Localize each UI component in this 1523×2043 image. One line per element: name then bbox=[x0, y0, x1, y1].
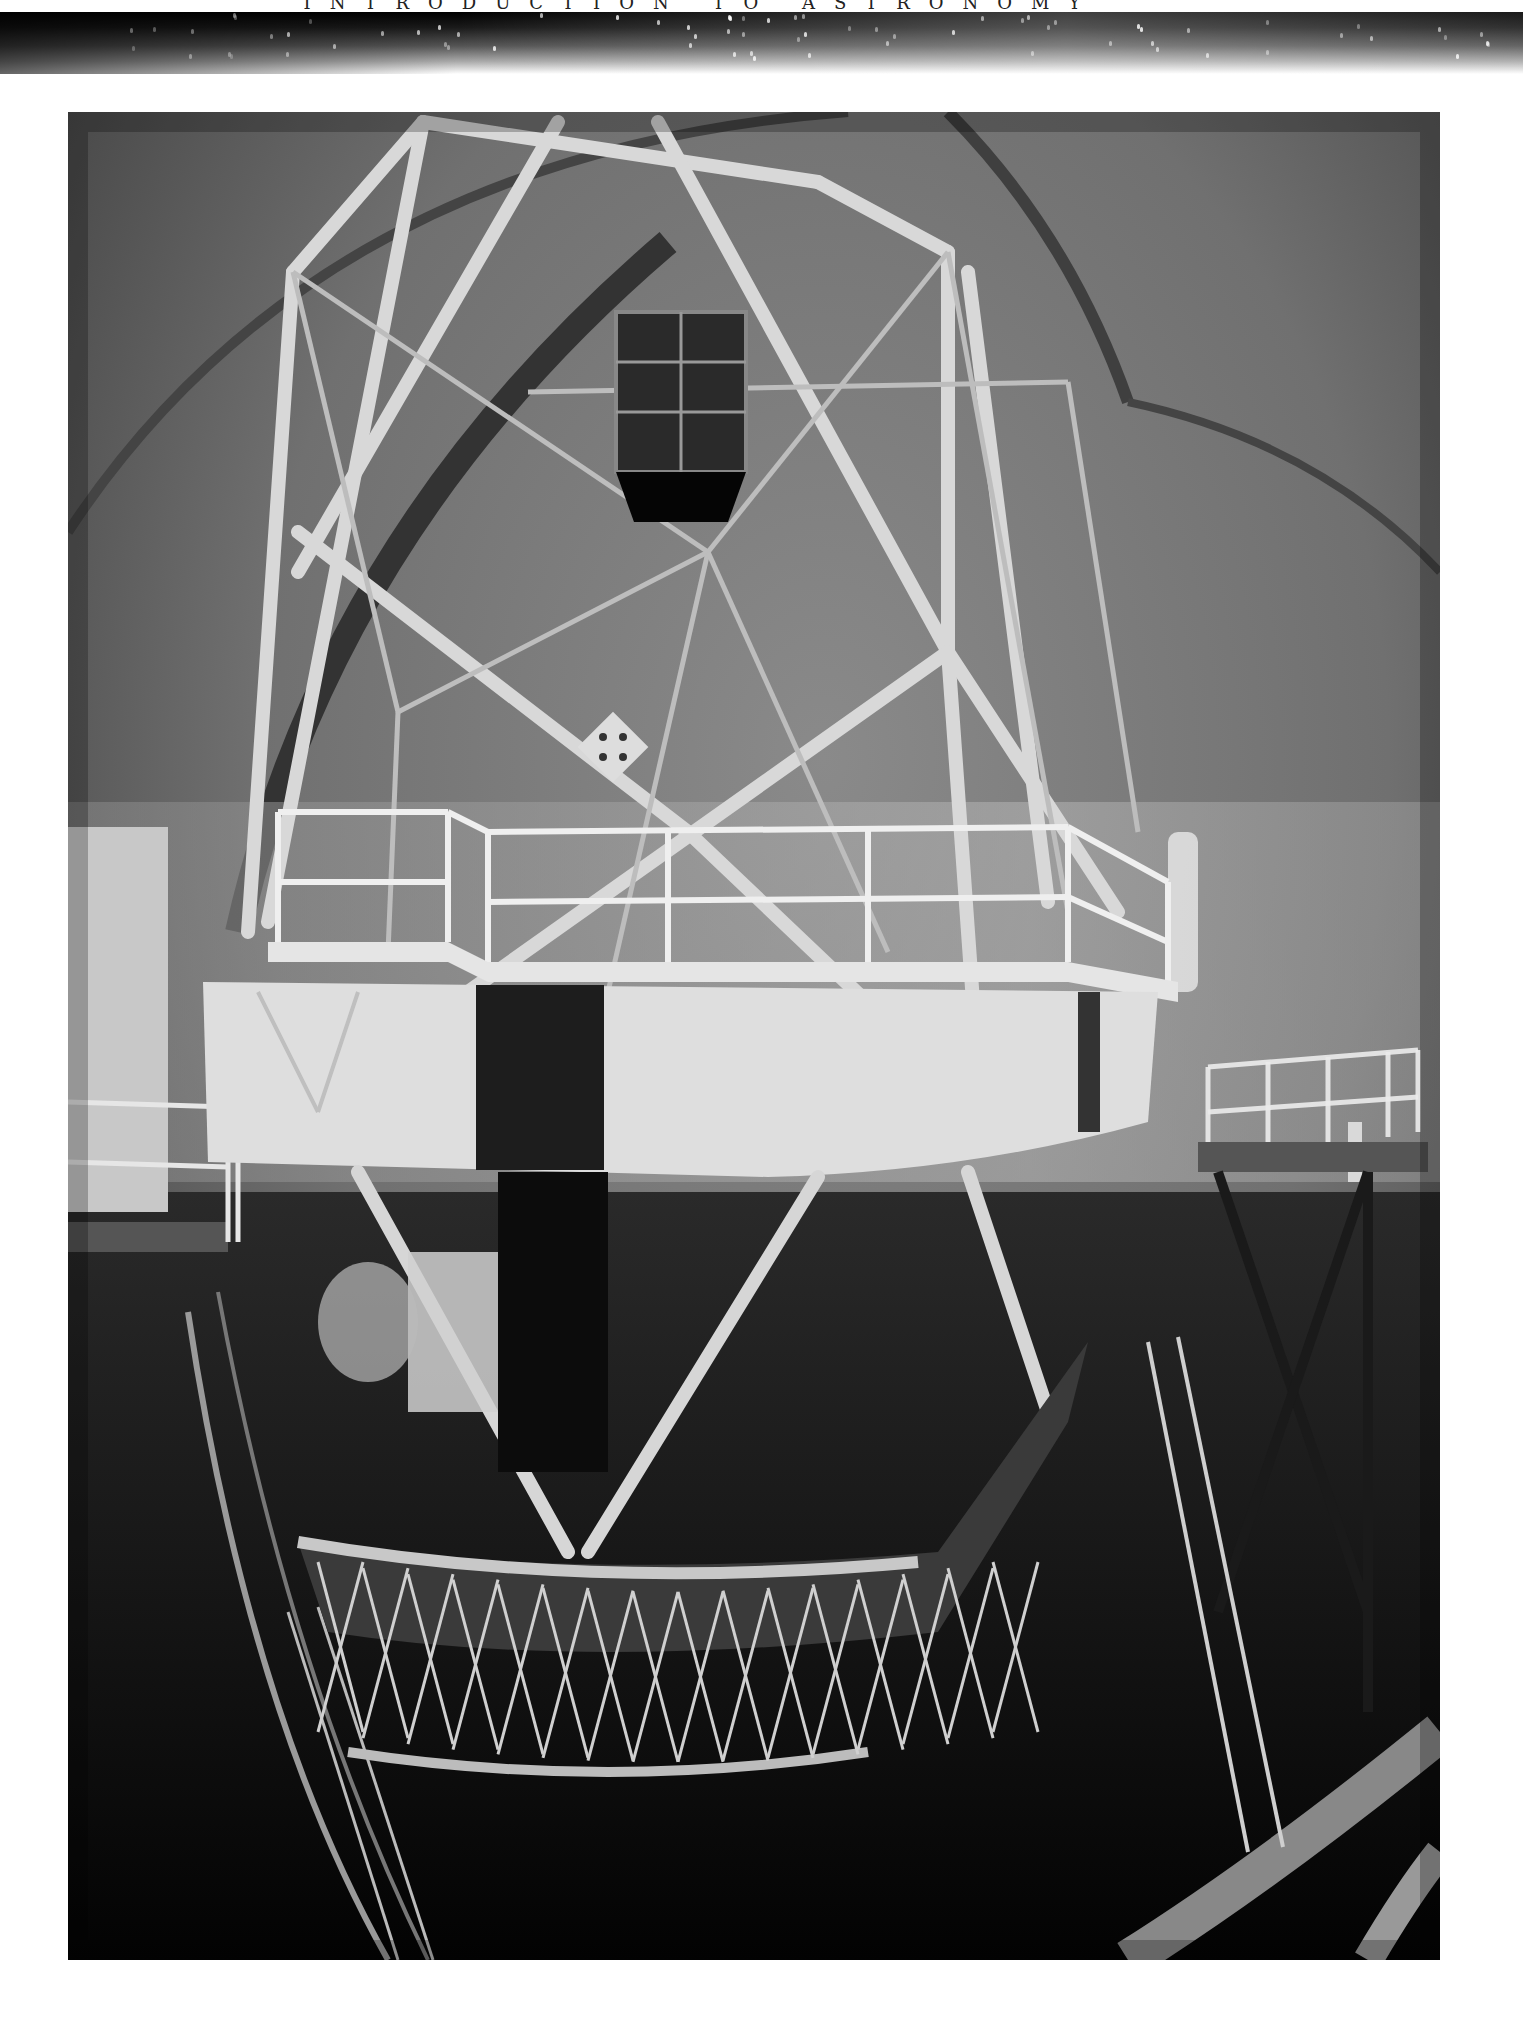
star-speck bbox=[952, 30, 955, 35]
star-speck bbox=[457, 32, 460, 37]
star-speck bbox=[1340, 33, 1343, 38]
center-section-panel bbox=[476, 985, 604, 1170]
star-speck bbox=[1109, 41, 1112, 46]
star-speck bbox=[728, 15, 731, 20]
star-speck bbox=[1370, 36, 1373, 41]
star-speck bbox=[733, 52, 736, 57]
telescope-center-section bbox=[203, 982, 1158, 1177]
star-speck bbox=[493, 46, 496, 51]
center-section-panel bbox=[1078, 992, 1100, 1132]
star-speck bbox=[687, 25, 690, 30]
star-speck bbox=[1054, 20, 1057, 25]
star-speck bbox=[189, 54, 192, 59]
star-speck bbox=[230, 54, 233, 59]
star-speck bbox=[540, 13, 543, 18]
star-speck bbox=[1438, 27, 1441, 32]
star-speck bbox=[742, 32, 745, 37]
star-speck bbox=[729, 16, 732, 21]
star-speck bbox=[1456, 54, 1459, 59]
star-speck bbox=[1031, 51, 1034, 56]
mirror-cell-equipment bbox=[318, 1262, 418, 1382]
star-speck bbox=[802, 14, 805, 19]
star-speck bbox=[753, 56, 756, 61]
star-speck bbox=[1487, 42, 1490, 47]
star-speck bbox=[893, 34, 896, 39]
star-speck bbox=[1140, 27, 1143, 32]
star-speck bbox=[1480, 32, 1483, 37]
star-speck bbox=[657, 20, 660, 25]
left-platform bbox=[68, 1222, 228, 1252]
telescope-photograph bbox=[68, 112, 1440, 1960]
star-speck bbox=[417, 30, 420, 35]
star-speck bbox=[270, 34, 273, 39]
star-speck bbox=[286, 52, 289, 57]
star-speck bbox=[797, 37, 800, 42]
right-platform bbox=[1198, 1142, 1428, 1172]
star-speck bbox=[132, 46, 135, 51]
star-speck bbox=[1137, 24, 1140, 29]
star-speck bbox=[233, 13, 236, 18]
star-speck bbox=[848, 26, 851, 31]
star-speck bbox=[1266, 50, 1269, 55]
prime-focus-cage bbox=[616, 312, 746, 522]
wall-light bbox=[1168, 832, 1198, 992]
star-speck bbox=[438, 25, 441, 30]
running-head-text: INTRODUCTION TO ASTRONOMY bbox=[304, 0, 1100, 12]
star-speck bbox=[886, 41, 889, 46]
star-speck bbox=[1444, 35, 1447, 40]
star-speck bbox=[742, 16, 745, 21]
star-speck bbox=[794, 15, 797, 20]
star-speck bbox=[444, 42, 447, 47]
star-speck bbox=[694, 34, 697, 39]
mirror-cell-column bbox=[498, 1172, 608, 1472]
star-speck bbox=[750, 51, 753, 56]
star-speck bbox=[1021, 18, 1024, 23]
star-speck bbox=[616, 15, 619, 20]
star-speck bbox=[1156, 47, 1159, 52]
star-speck bbox=[1486, 41, 1489, 46]
telescope-photo-svg bbox=[68, 112, 1440, 1960]
star-speck bbox=[767, 18, 770, 23]
star-speck bbox=[1027, 15, 1030, 20]
star-speck bbox=[191, 29, 194, 34]
star-speck bbox=[1047, 25, 1050, 30]
star-speck bbox=[1266, 20, 1269, 25]
star-speck bbox=[309, 19, 312, 24]
star-speck bbox=[875, 27, 878, 32]
star-speck bbox=[153, 27, 156, 32]
star-speck bbox=[381, 31, 384, 36]
star-speck bbox=[1206, 53, 1209, 58]
star-speck bbox=[228, 52, 231, 57]
mirror-cell-equipment bbox=[408, 1252, 498, 1412]
star-speck bbox=[130, 28, 133, 33]
star-speck bbox=[727, 29, 730, 34]
star-speck bbox=[1187, 28, 1190, 33]
star-speck bbox=[804, 32, 807, 37]
star-speck bbox=[234, 15, 237, 20]
star-speck bbox=[1357, 24, 1360, 29]
star-speck bbox=[808, 53, 811, 58]
starfield-header-band bbox=[0, 12, 1523, 74]
star-speck bbox=[689, 43, 692, 48]
star-speck bbox=[287, 32, 290, 37]
star-speck bbox=[333, 44, 336, 49]
star-speck bbox=[1151, 41, 1154, 46]
running-head: INTRODUCTION TO ASTRONOMY bbox=[0, 0, 1523, 12]
star-speck bbox=[981, 16, 984, 21]
star-speck bbox=[447, 45, 450, 50]
